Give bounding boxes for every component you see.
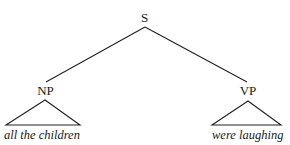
edge-s-to-vp xyxy=(145,27,247,82)
vp-leaf-text: were laughing xyxy=(212,128,283,142)
np-leaf-text: all the children xyxy=(4,128,80,142)
np-collapsed-triangle xyxy=(6,100,80,125)
node-np-label: NP xyxy=(37,83,54,98)
vp-collapsed-triangle xyxy=(212,101,281,125)
node-s-label: S xyxy=(141,10,148,25)
edge-s-to-np xyxy=(46,27,145,82)
syntax-tree-diagram: S NP all the children VP were laughing xyxy=(0,0,290,145)
node-vp-label: VP xyxy=(240,83,257,98)
